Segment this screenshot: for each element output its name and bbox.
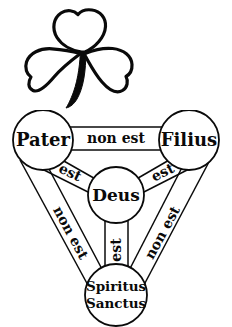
page-root: Pater Filius Deus Spiritus Sanctus non e… [0, 0, 232, 327]
node-label-pater: Pater [16, 129, 70, 150]
node-label-spiritus: Spiritus [86, 278, 147, 294]
shamrock-leaf-top [54, 10, 106, 52]
node-label-filius: Filius [161, 129, 218, 150]
scutum-fidei-svg: Pater Filius Deus Spiritus Sanctus non e… [0, 110, 232, 327]
edge-label-filius-spiritus: non est [141, 203, 183, 262]
shamrock-leaf-right [85, 48, 132, 91]
shamrock-icon [0, 0, 232, 116]
shamrock-figure [0, 0, 232, 116]
trinity-diagram: Pater Filius Deus Spiritus Sanctus non e… [0, 110, 232, 327]
node-label-deus: Deus [92, 185, 140, 205]
edge-label-spiritus-deus: est [108, 238, 124, 262]
edge-label-pater-filius: non est [87, 130, 145, 146]
node-label-sanctus: Sanctus [86, 295, 147, 311]
edge-label-pater-deus: est [56, 160, 84, 185]
shamrock-leaf-left [26, 49, 81, 91]
